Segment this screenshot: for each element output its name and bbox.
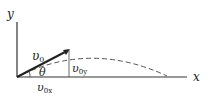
v0-label: υ0 <box>32 49 44 64</box>
theta-label: θ <box>39 66 46 79</box>
projectile-diagram: y x υ0 θ υ0y υ0x <box>0 0 212 97</box>
v0x-label: υ0x <box>37 81 52 95</box>
x-axis-label: x <box>193 70 200 84</box>
angle-arc <box>29 71 30 77</box>
y-axis-label: y <box>6 7 14 21</box>
v0y-label: υ0y <box>72 62 87 76</box>
